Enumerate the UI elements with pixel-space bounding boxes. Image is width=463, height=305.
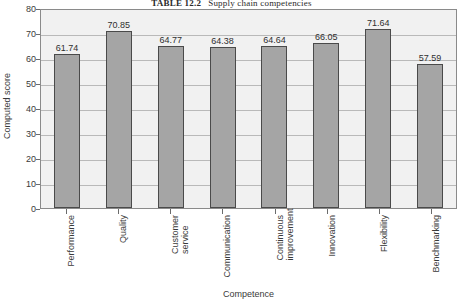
bar-series: 61.7470.8564.7764.3864.6466.0571.6457.59 xyxy=(41,10,456,208)
bar-value-label: 64.64 xyxy=(263,35,286,45)
x-tick-slot xyxy=(196,209,248,214)
y-axis-tick-mark xyxy=(36,109,40,110)
y-axis-tick-label: 50 xyxy=(14,80,36,89)
y-axis-tick-label: 80 xyxy=(14,5,36,14)
x-axis-category-label: Performance xyxy=(66,215,76,267)
caption-text: Supply chain competencies xyxy=(208,0,311,8)
x-axis-tick-mark xyxy=(118,209,119,214)
y-axis-tick-label: 60 xyxy=(14,55,36,64)
x-label-slot: Benchmarking xyxy=(405,215,457,287)
x-axis-title-label: Competence xyxy=(223,289,274,299)
y-axis-tick-labels: 01020304050607080 xyxy=(10,9,36,209)
y-axis-tick-mark xyxy=(36,34,40,35)
bar xyxy=(365,29,391,208)
bar xyxy=(417,64,443,208)
bar xyxy=(106,31,132,208)
x-axis-tick-mark xyxy=(66,209,67,214)
x-axis-category-label: Benchmarking xyxy=(431,215,441,273)
y-axis-tick-mark xyxy=(36,209,40,210)
x-axis-category-label: Customerservice xyxy=(170,215,190,254)
x-axis-category-label: Quality xyxy=(118,215,128,243)
y-axis-tick-label: 10 xyxy=(14,180,36,189)
x-label-slot: Quality xyxy=(92,215,144,287)
x-axis-title: Competence xyxy=(40,289,457,299)
bar-slot: 70.85 xyxy=(93,10,145,208)
table-caption: TABLE 12.2Supply chain competencies xyxy=(0,0,463,9)
y-axis-tick-label: 40 xyxy=(14,105,36,114)
x-label-slot: Customerservice xyxy=(144,215,196,287)
x-axis-tick-mark xyxy=(275,209,276,214)
x-axis-tick-labels: PerformanceQualityCustomerserviceCommuni… xyxy=(40,215,457,287)
x-tick-slot xyxy=(405,209,457,214)
bar-value-label: 71.64 xyxy=(367,18,390,28)
bar xyxy=(313,43,339,208)
x-label-slot: Communication xyxy=(196,215,248,287)
plot-area: 61.7470.8564.7764.3864.6466.0571.6457.59 xyxy=(40,9,457,209)
bar-value-label: 64.38 xyxy=(211,36,234,46)
bar-value-label: 61.74 xyxy=(56,43,79,53)
y-axis-tick-mark xyxy=(36,9,40,10)
x-axis-category-label: Continuousimprovement xyxy=(275,215,295,261)
x-label-slot: Continuousimprovement xyxy=(249,215,301,287)
x-axis-category-label: Innovation xyxy=(327,215,337,257)
bar-slot: 57.59 xyxy=(404,10,456,208)
figure: TABLE 12.2Supply chain competencies Comp… xyxy=(0,0,463,305)
y-axis-tick-label: 20 xyxy=(14,155,36,164)
x-tick-slot xyxy=(353,209,405,214)
bar xyxy=(261,46,287,208)
y-axis-tick-label: 30 xyxy=(14,130,36,139)
x-axis-tick-mark xyxy=(431,209,432,214)
bar-value-label: 70.85 xyxy=(108,20,131,30)
x-axis-category-label: Communication xyxy=(222,215,232,278)
bar-slot: 61.74 xyxy=(41,10,93,208)
x-tick-slot xyxy=(40,209,92,214)
x-label-slot: Innovation xyxy=(301,215,353,287)
x-label-slot: Flexibility xyxy=(353,215,405,287)
y-axis-tick-label: 70 xyxy=(14,30,36,39)
x-tick-slot xyxy=(301,209,353,214)
y-axis-tick-mark xyxy=(36,184,40,185)
bar-slot: 64.64 xyxy=(249,10,301,208)
x-tick-slot xyxy=(144,209,196,214)
x-axis-tick-marks xyxy=(40,209,457,214)
x-axis-category-label-line2: service xyxy=(180,226,190,255)
x-axis-tick-mark xyxy=(222,209,223,214)
x-axis-tick-mark xyxy=(327,209,328,214)
bar xyxy=(210,47,236,208)
bar-value-label: 64.77 xyxy=(159,35,182,45)
bar-slot: 71.64 xyxy=(352,10,404,208)
caption-label: TABLE 12.2 xyxy=(151,0,201,8)
y-axis-tick-mark xyxy=(36,84,40,85)
x-axis-category-label-line2: improvement xyxy=(285,209,295,261)
bar xyxy=(158,46,184,208)
y-axis-tick-mark xyxy=(36,134,40,135)
y-axis-tick-mark xyxy=(36,159,40,160)
y-axis-tick-label: 0 xyxy=(14,205,36,214)
bar-value-label: 57.59 xyxy=(419,53,442,63)
y-axis-tick-mark xyxy=(36,59,40,60)
x-label-slot: Performance xyxy=(40,215,92,287)
x-axis-category-label: Flexibility xyxy=(379,215,389,252)
x-axis-tick-mark xyxy=(379,209,380,214)
x-axis-tick-mark xyxy=(170,209,171,214)
bar-slot: 64.38 xyxy=(197,10,249,208)
bar-slot: 66.05 xyxy=(300,10,352,208)
bar-slot: 64.77 xyxy=(145,10,197,208)
bar-value-label: 66.05 xyxy=(315,32,338,42)
x-tick-slot xyxy=(92,209,144,214)
bar xyxy=(54,54,80,208)
